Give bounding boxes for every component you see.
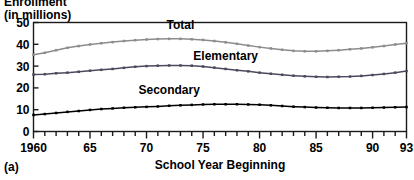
series-marker-secondary xyxy=(145,106,148,109)
series-marker-elementary xyxy=(134,66,137,69)
series-marker-elementary xyxy=(281,74,284,77)
series-marker-total xyxy=(100,42,103,45)
series-marker-elementary xyxy=(315,76,318,79)
series-marker-secondary xyxy=(360,107,363,110)
series-marker-total xyxy=(179,38,182,41)
series-marker-total xyxy=(394,43,397,46)
series-marker-total xyxy=(236,43,239,46)
series-label-elementary: Elementary xyxy=(193,49,258,63)
series-marker-total xyxy=(326,50,329,53)
series-marker-total xyxy=(111,41,114,44)
series-marker-total xyxy=(168,38,171,41)
series-marker-elementary xyxy=(202,65,205,68)
series-marker-secondary xyxy=(190,104,193,107)
series-marker-total xyxy=(304,50,307,53)
x-tick-label: 85 xyxy=(309,141,323,155)
figure-panel: Enrollment (in millions) 010203040501960… xyxy=(0,0,414,180)
series-marker-secondary xyxy=(315,106,318,109)
series-marker-elementary xyxy=(168,64,171,67)
series-marker-elementary xyxy=(337,76,340,79)
series-marker-total xyxy=(224,41,227,44)
series-marker-secondary xyxy=(44,113,47,116)
series-marker-total xyxy=(66,47,69,50)
series-marker-total xyxy=(32,54,35,57)
series-marker-elementary xyxy=(383,73,386,76)
series-marker-secondary xyxy=(157,105,160,108)
series-label-total: Total xyxy=(167,18,195,32)
series-marker-elementary xyxy=(32,73,35,76)
series-marker-total xyxy=(349,48,352,51)
y-tick-label: 20 xyxy=(16,81,30,95)
series-marker-total xyxy=(247,44,250,47)
series-marker-secondary xyxy=(89,109,92,112)
line-chart: 01020304050196065707580859093School Year… xyxy=(0,0,414,180)
x-tick-label: 65 xyxy=(83,141,97,155)
series-marker-total xyxy=(44,52,47,55)
x-axis-title: School Year Beginning xyxy=(155,158,285,172)
series-marker-elementary xyxy=(292,74,295,77)
series-marker-total xyxy=(371,46,374,49)
series-marker-secondary xyxy=(371,106,374,109)
y-tick-label: 10 xyxy=(16,103,30,117)
series-marker-elementary xyxy=(66,71,69,74)
series-label-secondary: Secondary xyxy=(138,83,200,97)
series-marker-secondary xyxy=(247,103,250,106)
y-tick-label: 0 xyxy=(23,125,30,139)
series-marker-total xyxy=(77,45,80,48)
series-marker-secondary xyxy=(236,103,239,106)
series-marker-secondary xyxy=(326,106,329,109)
series-marker-elementary xyxy=(213,66,216,69)
series-marker-total xyxy=(145,38,148,41)
series-marker-secondary xyxy=(77,110,80,113)
series-marker-total xyxy=(213,40,216,43)
series-marker-secondary xyxy=(32,114,35,117)
series-marker-elementary xyxy=(44,73,47,76)
x-tick-label: 93 xyxy=(400,141,414,155)
series-marker-secondary xyxy=(100,108,103,111)
series-marker-total xyxy=(360,47,363,50)
series-marker-total xyxy=(157,38,160,41)
series-marker-elementary xyxy=(405,70,408,73)
series-marker-total xyxy=(55,49,58,52)
series-marker-total xyxy=(190,38,193,41)
series-marker-total xyxy=(315,50,318,53)
y-tick-label: 40 xyxy=(16,38,30,52)
series-marker-total xyxy=(202,39,205,42)
series-marker-elementary xyxy=(100,69,103,72)
series-marker-secondary xyxy=(383,106,386,109)
series-marker-elementary xyxy=(258,71,261,74)
x-tick-label: 1960 xyxy=(20,141,47,155)
series-marker-total xyxy=(258,46,261,49)
series-marker-total xyxy=(292,50,295,53)
series-marker-secondary xyxy=(224,103,227,106)
x-tick-label: 75 xyxy=(196,141,210,155)
series-marker-secondary xyxy=(394,106,397,109)
series-marker-elementary xyxy=(360,75,363,78)
series-marker-secondary xyxy=(202,103,205,106)
series-marker-total xyxy=(270,47,273,50)
series-marker-total xyxy=(337,49,340,52)
series-marker-secondary xyxy=(123,106,126,109)
series-marker-secondary xyxy=(258,103,261,106)
series-marker-total xyxy=(123,40,126,43)
series-marker-secondary xyxy=(179,104,182,107)
series-marker-elementary xyxy=(394,71,397,74)
series-marker-secondary xyxy=(134,106,137,109)
series-marker-secondary xyxy=(270,104,273,107)
x-tick-label: 90 xyxy=(366,141,380,155)
series-marker-secondary xyxy=(281,105,284,108)
series-marker-secondary xyxy=(292,105,295,108)
series-marker-elementary xyxy=(89,69,92,72)
series-marker-total xyxy=(383,45,386,48)
series-marker-secondary xyxy=(168,105,171,108)
chart-svg: 01020304050196065707580859093School Year… xyxy=(0,0,414,180)
x-tick-label: 80 xyxy=(253,141,267,155)
series-marker-elementary xyxy=(224,68,227,71)
series-marker-elementary xyxy=(179,64,182,67)
series-marker-secondary xyxy=(337,107,340,110)
series-marker-elementary xyxy=(326,76,329,79)
series-marker-total xyxy=(89,43,92,46)
y-tick-label: 50 xyxy=(16,16,30,30)
series-marker-elementary xyxy=(77,71,80,74)
series-marker-elementary xyxy=(371,74,374,77)
